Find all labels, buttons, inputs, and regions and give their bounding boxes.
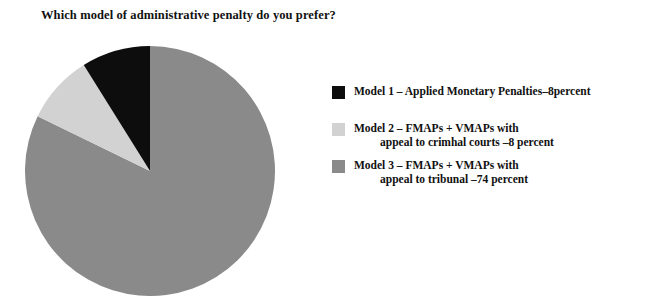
- pie-chart-svg: [25, 46, 275, 296]
- model-2-swatch-icon: [332, 123, 345, 136]
- legend: Model 1 – Applied Monetary Penalties–8pe…: [332, 84, 657, 201]
- legend-label-model-3-line2: appeal to tribunal –74 percent: [354, 172, 657, 187]
- pie-chart: [25, 46, 275, 296]
- legend-item-model-2[interactable]: Model 2 – FMAPs + VMAPs with appeal to c…: [332, 121, 657, 150]
- page-title: Which model of administrative penalty do…: [41, 8, 336, 23]
- legend-label-model-2-line1: Model 2 – FMAPs + VMAPs with: [354, 121, 657, 136]
- legend-label-model-1-line1: Model 1 – Applied Monetary Penalties–8pe…: [354, 84, 657, 99]
- model-1-swatch-icon: [332, 86, 345, 99]
- legend-item-model-1[interactable]: Model 1 – Applied Monetary Penalties–8pe…: [332, 84, 657, 99]
- pie-chart-figure: Which model of administrative penalty do…: [0, 0, 663, 302]
- legend-item-model-3[interactable]: Model 3 – FMAPs + VMAPs with appeal to t…: [332, 158, 657, 187]
- model-3-swatch-icon: [332, 160, 345, 173]
- legend-label-model-3-line1: Model 3 – FMAPs + VMAPs with: [354, 158, 657, 173]
- legend-label-model-2-line2: appeal to crimhal courts –8 percent: [354, 135, 657, 150]
